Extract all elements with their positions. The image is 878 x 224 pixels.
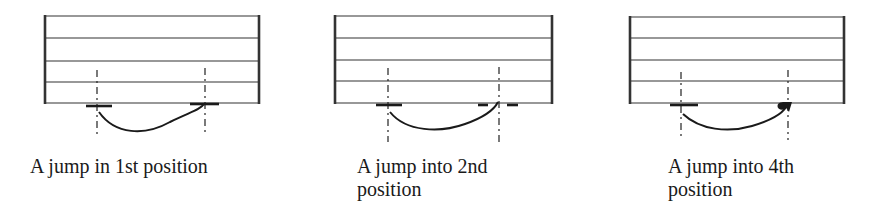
caption-jump-2nd: A jump into 2nd position xyxy=(357,155,488,201)
staff xyxy=(630,16,845,104)
caption-jump-1st: A jump in 1st position xyxy=(30,155,208,178)
caption-line: position xyxy=(357,178,488,201)
caption-line: position xyxy=(668,178,794,201)
staff xyxy=(45,15,260,104)
panel-jump-1st xyxy=(45,15,260,136)
panel-jump-4th xyxy=(630,16,845,140)
jump-curve xyxy=(683,107,786,130)
caption-line: A jump into 2nd xyxy=(357,155,488,178)
caption-jump-4th: A jump into 4th position xyxy=(668,155,794,201)
panel-jump-2nd xyxy=(335,15,553,142)
caption-line: A jump into 4th xyxy=(668,155,794,178)
caption-line: A jump in 1st position xyxy=(30,155,208,178)
jump-curve xyxy=(99,104,204,131)
staff xyxy=(335,15,553,104)
